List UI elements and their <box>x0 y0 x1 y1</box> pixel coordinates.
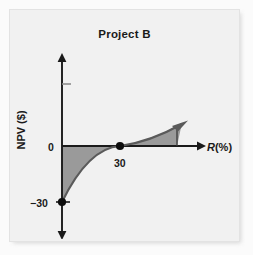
data-point-crossover <box>116 142 124 150</box>
figure-root: Project B NPV ($) R(%) 0 30 −30 <box>0 0 253 255</box>
x-axis-arrowhead <box>197 141 206 150</box>
plot-area <box>0 0 253 255</box>
y-axis-top-arrowhead <box>58 53 67 62</box>
data-point-y-intercept <box>58 198 66 206</box>
shaded-area-negative <box>62 146 120 202</box>
y-axis-bottom-arrowhead <box>58 231 67 240</box>
